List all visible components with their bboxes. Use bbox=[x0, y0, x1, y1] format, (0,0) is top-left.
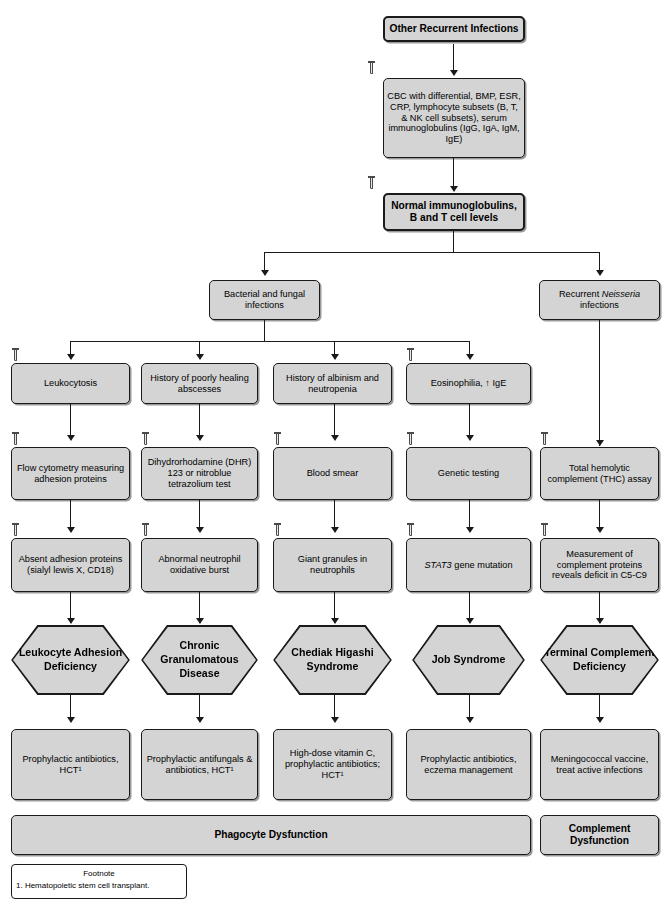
node-result-cgd[interactable]: Abnormal neutrophil oxidative burst bbox=[141, 538, 258, 592]
node-treatment-chs[interactable]: High-dose vitamin C, prophylactic antibi… bbox=[273, 729, 392, 800]
node-finding-cgd[interactable]: History of poorly healing abscesses bbox=[141, 363, 258, 404]
connector-job-finding-test bbox=[469, 404, 470, 439]
neisseria-label: Recurrent Neisseria infections bbox=[543, 289, 656, 311]
tube-body bbox=[543, 525, 547, 536]
connector-cgd-finding-test bbox=[199, 404, 200, 439]
test-tube-icon bbox=[274, 432, 281, 445]
node-result-lad[interactable]: Absent adhesion proteins (sialyl lewis X… bbox=[11, 538, 130, 592]
node-finding-lad[interactable]: Leukocytosis bbox=[11, 363, 130, 404]
connector-neisseria-thc bbox=[599, 320, 600, 446]
node-diagnosis-cgd[interactable]: Chronic Granulomatous Disease bbox=[141, 625, 258, 695]
node-result-job[interactable]: STAT3 gene mutation bbox=[406, 538, 531, 592]
tube-body bbox=[370, 63, 374, 74]
test-tube-icon bbox=[12, 523, 19, 536]
arrow-tcd-result bbox=[596, 527, 604, 533]
node-diagnosis-job[interactable]: Job Syndrome bbox=[412, 625, 525, 695]
tube-body bbox=[144, 434, 148, 445]
node-finding-chs[interactable]: History of albinism and neutropenia bbox=[273, 363, 392, 404]
flowchart-canvas: Other Recurrent Infections CBC with diff… bbox=[0, 0, 668, 910]
arrow-col4 bbox=[466, 354, 474, 360]
node-recurrent-neisseria[interactable]: Recurrent Neisseria infections bbox=[539, 280, 660, 320]
tube-body bbox=[14, 350, 18, 361]
test-tube-icon bbox=[541, 523, 548, 536]
node-test-lad[interactable]: Flow cytometry measuring adhesion protei… bbox=[11, 447, 130, 500]
arrow-lad-test bbox=[67, 435, 75, 441]
node-bacterial-fungal[interactable]: Bacterial and fungal infections bbox=[209, 280, 320, 320]
node-diagnosis-chs[interactable]: Chediak Higashi Syndrome bbox=[273, 625, 392, 695]
test-tube-icon bbox=[407, 523, 414, 536]
arrow-job-test bbox=[466, 435, 474, 441]
arrow-lad-dx bbox=[67, 618, 75, 624]
connector-bacterial-stem bbox=[264, 320, 265, 342]
tube-body bbox=[144, 525, 148, 536]
arrow-chs-dx bbox=[331, 618, 339, 624]
arrow-to-neisseria bbox=[596, 270, 604, 276]
node-test-tcd[interactable]: Total hemolytic complement (THC) assay bbox=[540, 447, 659, 500]
node-result-chs[interactable]: Giant granules in neutrophils bbox=[273, 538, 392, 592]
connector-lad-finding-test bbox=[70, 404, 71, 439]
footnote-box: Footnote 1. Hematopoietic stem cell tran… bbox=[11, 864, 187, 899]
arrow-job-tx bbox=[466, 717, 474, 723]
arrow-to-bacterial bbox=[261, 270, 269, 276]
diagnosis-label: Terminal Complement Deficiency bbox=[540, 646, 659, 674]
node-workup[interactable]: CBC with differential, BMP, ESR, CRP, ly… bbox=[383, 78, 525, 158]
node-finding-job[interactable]: Eosinophilia, ↑ IgE bbox=[406, 363, 531, 404]
tube-body bbox=[14, 434, 18, 445]
arrow-chs-tx bbox=[331, 717, 339, 723]
connector-bacterial-bar bbox=[70, 341, 469, 342]
arrow-chs-result bbox=[331, 527, 339, 533]
test-tube-icon bbox=[12, 348, 19, 361]
arrow-cgd-tx bbox=[196, 717, 204, 723]
footnote-item-1: 1. Hematopoietic stem cell transplant. bbox=[16, 880, 182, 892]
arrow-col3 bbox=[331, 354, 339, 360]
connector-normal-split-stem bbox=[453, 231, 454, 253]
tube-body bbox=[409, 525, 413, 536]
arrow-neisseria-thc bbox=[596, 440, 604, 446]
node-summary-phagocyte[interactable]: Phagocyte Dysfunction bbox=[11, 815, 531, 855]
node-treatment-cgd[interactable]: Prophylactic antifungals & antibiotics, … bbox=[141, 729, 258, 800]
node-summary-complement[interactable]: Complement Dysfunction bbox=[540, 815, 659, 855]
node-root[interactable]: Other Recurrent Infections bbox=[383, 16, 525, 42]
node-result-tcd[interactable]: Measurement of complement proteins revea… bbox=[540, 538, 659, 592]
arrow-workup-normal bbox=[450, 186, 458, 192]
job-result-label: STAT3 gene mutation bbox=[424, 560, 512, 571]
node-normal-labs[interactable]: Normal immunoglobulins, B and T cell lev… bbox=[383, 193, 525, 231]
node-test-job[interactable]: Genetic testing bbox=[406, 447, 531, 500]
connector-chs-finding-test bbox=[334, 404, 335, 439]
test-tube-icon bbox=[541, 432, 548, 445]
arrow-lad-result bbox=[67, 527, 75, 533]
diagnosis-label: Chronic Granulomatous Disease bbox=[141, 639, 258, 680]
diagnosis-label: Chediak Higashi Syndrome bbox=[273, 646, 392, 674]
node-treatment-tcd[interactable]: Meningococcal vaccine, treat active infe… bbox=[540, 729, 659, 800]
arrow-lad-tx bbox=[67, 717, 75, 723]
node-diagnosis-lad[interactable]: Leukocyte Adhesion Deficiency bbox=[11, 625, 130, 695]
diagnosis-label: Leukocyte Adhesion Deficiency bbox=[11, 646, 130, 674]
diagnosis-label: Job Syndrome bbox=[428, 653, 510, 667]
node-test-chs[interactable]: Blood smear bbox=[273, 447, 392, 500]
arrow-cgd-test bbox=[196, 435, 204, 441]
arrow-job-dx bbox=[466, 618, 474, 624]
tube-body bbox=[543, 434, 547, 445]
arrow-root-workup bbox=[450, 70, 458, 76]
test-tube-icon bbox=[407, 432, 414, 445]
footnote-title: Footnote bbox=[16, 868, 182, 880]
node-treatment-lad[interactable]: Prophylactic antibiotics, HCT¹ bbox=[11, 729, 130, 800]
arrow-col1 bbox=[67, 354, 75, 360]
test-tube-icon bbox=[12, 432, 19, 445]
connector-normal-split-bar bbox=[264, 252, 599, 253]
test-tube-icon bbox=[274, 523, 281, 536]
test-tube-icon bbox=[407, 348, 414, 361]
node-diagnosis-tcd[interactable]: Terminal Complement Deficiency bbox=[540, 625, 659, 695]
test-tube-icon bbox=[368, 176, 375, 189]
arrow-col2 bbox=[196, 354, 204, 360]
node-test-cgd[interactable]: Dihydrorhodamine (DHR) 123 or nitroblue … bbox=[141, 447, 258, 500]
tube-body bbox=[276, 525, 280, 536]
tube-body bbox=[276, 434, 280, 445]
node-treatment-job[interactable]: Prophylactic antibiotics, eczema managem… bbox=[406, 729, 531, 800]
tube-body bbox=[370, 178, 374, 189]
arrow-cgd-result bbox=[196, 527, 204, 533]
arrow-cgd-dx bbox=[196, 618, 204, 624]
arrow-chs-test bbox=[331, 435, 339, 441]
arrow-tcd-dx bbox=[596, 618, 604, 624]
test-tube-icon bbox=[142, 523, 149, 536]
